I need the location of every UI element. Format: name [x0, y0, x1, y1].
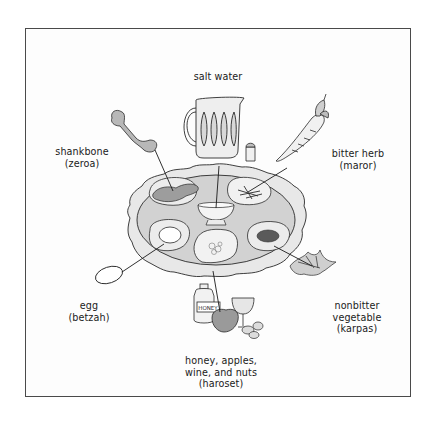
label-egg-line1: egg	[58, 300, 120, 312]
egg	[93, 263, 125, 287]
label-haroset-line1: honey, apples,	[176, 355, 266, 367]
parsley	[290, 250, 336, 275]
haroset-cavity	[194, 229, 238, 262]
label-egg-line2: (betzah)	[58, 312, 120, 324]
egg-on-plate	[159, 227, 181, 243]
label-bitter-herb-line1: bitter herb	[322, 148, 394, 160]
label-nonbitter-vegetable: nonbitter vegetable (karpas)	[322, 300, 392, 335]
label-haroset-line2: wine, and nuts	[176, 367, 266, 379]
karpas-on-plate	[257, 230, 279, 242]
label-karpas-line2: vegetable	[322, 312, 392, 324]
label-haroset-line3: (haroset)	[176, 378, 266, 390]
label-salt-water: salt water	[186, 71, 250, 83]
salt-water-pitcher	[184, 97, 244, 158]
label-bitter-herb-line2: (maror)	[322, 160, 394, 172]
label-bitter-herb: bitter herb (maror)	[322, 148, 394, 171]
svg-text:HONEY: HONEY	[198, 305, 218, 311]
apple	[212, 309, 238, 332]
salt-shaker	[246, 143, 255, 161]
label-shankbone: shankbone (zeroa)	[46, 146, 118, 169]
walnuts	[242, 322, 263, 339]
label-haroset: honey, apples, wine, and nuts (haroset)	[176, 355, 266, 390]
label-shankbone-line1: shankbone	[46, 146, 118, 158]
shankbone	[111, 110, 156, 152]
label-egg: egg (betzah)	[58, 300, 120, 323]
horseradish	[276, 94, 329, 161]
label-karpas-line1: nonbitter	[322, 300, 392, 312]
label-salt-water-line1: salt water	[186, 71, 250, 83]
label-shankbone-line2: (zeroa)	[46, 158, 118, 170]
label-karpas-line3: (karpas)	[322, 323, 392, 335]
